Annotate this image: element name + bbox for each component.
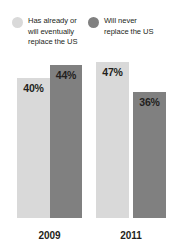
axis-label-2011: 2011 — [96, 230, 166, 241]
bar-value-2009-never-replace: 44% — [50, 69, 82, 81]
plot-area: 40% 44% 47% 36% 2009 2011 — [0, 0, 184, 247]
bar-2011-never-replace: 36% — [133, 92, 166, 218]
bar-2009-replace: 40% — [17, 78, 50, 218]
axis-label-2009: 2009 — [17, 230, 82, 241]
bar-value-2009-replace: 40% — [17, 82, 50, 94]
grouped-bar-chart: Has already or will eventually replace t… — [0, 0, 184, 247]
bar-value-2011-never-replace: 36% — [133, 96, 166, 108]
bar-2011-replace: 47% — [96, 62, 129, 218]
bar-2009-never-replace: 44% — [50, 65, 82, 218]
bar-value-2011-replace: 47% — [96, 66, 129, 78]
